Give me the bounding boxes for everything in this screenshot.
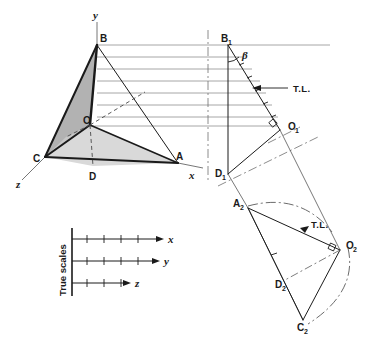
vertex-label-A: A [176, 151, 183, 162]
fold-line-o1-extension [268, 127, 300, 143]
scale-arrow-head [152, 258, 160, 264]
legend-scale-x: x [72, 233, 174, 245]
axis-label-y: y [91, 9, 98, 21]
hidden-edge-OB-diag [90, 92, 145, 125]
true-scales-legend: x y [57, 228, 174, 296]
shaded-faces [45, 45, 178, 166]
scale-label-y: y [162, 255, 169, 267]
angle-label-beta: β [241, 49, 248, 61]
vertex-label-O: O [83, 115, 91, 126]
tl-tick [271, 253, 277, 255]
scale-label-z: z [134, 277, 140, 289]
legend-scale-z: z [72, 277, 140, 289]
vertex-label-C2-subscript: 2 [304, 328, 308, 335]
true-length-label-1: T.L. [293, 83, 310, 94]
vertex-label-D2-subscript: 2 [282, 285, 286, 292]
projector-to-O2 [280, 130, 340, 250]
edge-A2C2 [248, 208, 303, 320]
rotation-arcs [248, 202, 350, 324]
vertex-label-O1-subscript: 1 [295, 127, 299, 134]
x-axis [178, 163, 203, 168]
right-angle-marker-O2 [328, 243, 336, 251]
scale-arrow-head [156, 236, 164, 242]
true-length-callout-2: T.L. [300, 219, 328, 233]
vertex-label-C: C [33, 153, 40, 164]
vertex-label-A2-subscript: 2 [240, 204, 244, 211]
axis-label-x: x [188, 169, 195, 181]
vertex-label-B: B [100, 33, 107, 44]
true-scales-title: True scales [57, 244, 68, 296]
fold-line-oblique [218, 137, 318, 186]
axis-label-z: z [15, 178, 21, 190]
true-length-callout-1: T.L. [252, 83, 310, 94]
true-length-label-2: T.L. [311, 219, 328, 230]
vertex-label-D: D [89, 171, 96, 182]
arc-C2-swing [308, 248, 350, 324]
vertex-label-B1-subscript: 1 [228, 39, 232, 46]
aux-view-1-edges [228, 45, 280, 174]
fold-lines-view2 [218, 127, 318, 186]
descriptive-geometry-figure: y B O C D A z x [0, 0, 370, 342]
legend-scale-y: y [72, 255, 169, 267]
scale-label-x: x [167, 233, 174, 245]
vertex-label-D1-subscript: 1 [222, 174, 226, 181]
scale-arrow-head [123, 280, 131, 286]
edge-D1O1 [228, 130, 280, 174]
vertex-label-O2-subscript: 2 [353, 246, 357, 253]
figure-canvas: y B O C D A z x [0, 0, 370, 342]
true-length-ticks-view2 [271, 253, 277, 255]
